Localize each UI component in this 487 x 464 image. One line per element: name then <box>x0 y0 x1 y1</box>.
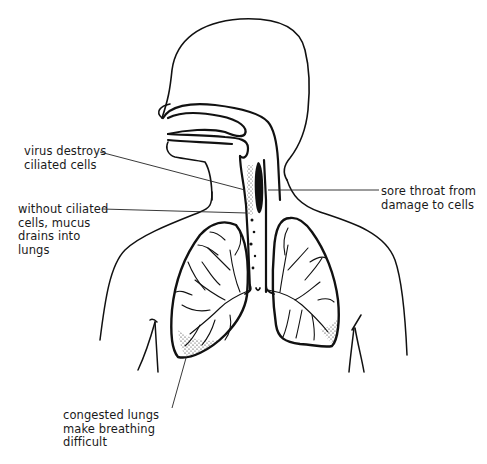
leader-virus <box>100 152 245 190</box>
left-lung <box>268 218 339 347</box>
body-outline <box>100 180 407 372</box>
label-line: sore throat from <box>381 185 476 199</box>
label-line: difficult <box>63 436 159 450</box>
label-line: drains into <box>18 230 108 244</box>
label-mucus-drains: without ciliated cells, mucus drains int… <box>18 203 108 257</box>
label-line: cells, mucus <box>18 217 108 231</box>
label-sore-throat: sore throat from damage to cells <box>381 185 476 212</box>
label-line: damage to cells <box>381 199 476 213</box>
leader-mucus <box>102 209 247 213</box>
label-congested-lungs: congested lungs make breathing difficult <box>63 409 159 450</box>
head-outline <box>159 19 310 200</box>
label-line: lungs <box>18 244 108 258</box>
label-line: ciliated cells <box>24 159 106 173</box>
label-line: virus destroys <box>24 145 106 159</box>
label-line: congested lungs <box>63 409 159 423</box>
label-line: without ciliated <box>18 203 108 217</box>
right-lung <box>171 222 250 357</box>
label-virus-destroys-ciliated-cells: virus destroys ciliated cells <box>24 145 106 172</box>
leader-congested <box>172 358 186 408</box>
label-line: make breathing <box>63 423 159 437</box>
